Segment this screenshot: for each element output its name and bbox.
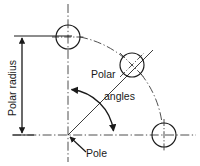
axes-group <box>12 4 196 162</box>
bolt-circle-arc-lower <box>141 74 162 123</box>
polar-radius-dimension: Polar radius <box>6 36 72 135</box>
hole-top <box>52 25 84 49</box>
polar-radius-label: Polar radius <box>6 60 18 116</box>
hole-middle <box>120 53 144 77</box>
diagram-canvas: Polar radius Polar angles Pole <box>0 0 200 166</box>
pole-label: Pole <box>86 147 107 159</box>
polar-angles-label-line1: Polar <box>91 68 116 80</box>
polar-angles-label-line2: angles <box>104 90 135 102</box>
polar-coordinate-diagram: Polar radius Polar angles Pole <box>0 0 200 166</box>
annotation-pole: Pole <box>70 137 107 159</box>
annotation-polar-angles: Polar angles <box>91 68 135 102</box>
pole-leader-line <box>70 137 86 152</box>
bolt-circle-arc-upper <box>80 37 123 57</box>
